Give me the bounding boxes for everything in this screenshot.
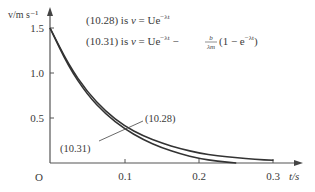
y-axis-label: v/m s⁻¹	[8, 9, 38, 20]
equation-10-31-tail: (1 − e−λt)	[219, 34, 258, 48]
curve-label-10-28: (10.28)	[145, 113, 176, 125]
y-tick-label: 1.5	[30, 22, 44, 34]
curve-10-28	[50, 28, 274, 160]
origin-label: O	[35, 171, 43, 183]
x-axis-arrow-icon	[294, 160, 303, 166]
fraction-denominator: λm	[206, 43, 215, 51]
fraction-numerator: b	[209, 34, 213, 42]
y-axis-arrow-icon	[47, 7, 53, 16]
x-axis-label: t/s	[289, 170, 299, 182]
equation-10-31: (10.31) is v = Ue−λt −	[86, 34, 179, 48]
y-tick-label: 1.0	[30, 67, 44, 79]
x-tick-label: 0.3	[266, 170, 280, 182]
x-tick-label: 0.2	[192, 170, 206, 182]
chart: 0.1 0.2 0.3 0.5 1.0 1.5 O t/s v/m s⁻¹ (1…	[0, 0, 315, 192]
equation-10-28: (10.28) is v = Ue−λt	[86, 13, 170, 27]
y-tick-label: 0.5	[30, 112, 44, 124]
x-tick-label: 0.1	[118, 170, 132, 182]
curve-label-10-31: (10.31)	[60, 143, 91, 155]
